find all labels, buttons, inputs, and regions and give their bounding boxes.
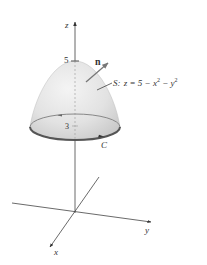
tick-label-5: 5 — [64, 55, 69, 65]
z-axis-label: z — [64, 20, 69, 30]
normal-label: n — [95, 56, 101, 67]
x-axis-label: x — [53, 247, 58, 257]
paraboloid-surface — [30, 61, 120, 140]
x-axis — [50, 177, 99, 247]
paraboloid-diagram: z 5 3 n S: z = 5 − x2 − y2 C y x — [0, 0, 207, 265]
curve-c-label: C — [101, 140, 108, 150]
tick-label-3: 3 — [65, 122, 69, 131]
surface-label: S: z = 5 − x2 − y2 — [113, 77, 177, 88]
y-axis — [12, 203, 151, 222]
y-axis-label: y — [144, 225, 149, 235]
